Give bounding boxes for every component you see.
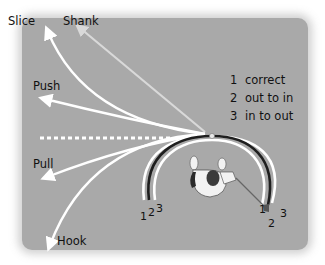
legend-number: 2	[230, 93, 245, 105]
label-shank: Shank	[63, 16, 99, 28]
legend-row-3: 3in to out	[230, 111, 293, 123]
legend-row-2: 2out to in	[230, 93, 293, 105]
golfer-figure	[190, 156, 269, 212]
arc-number-right-2: 2	[268, 218, 275, 229]
arc-number-right-3: 3	[280, 208, 287, 219]
label-slice: Slice	[8, 16, 35, 28]
arc-number-left-1: 1	[140, 211, 147, 222]
label-pull: Pull	[33, 159, 53, 171]
legend-text: in to out	[245, 109, 293, 123]
ball-icon	[209, 133, 214, 138]
arc-number-right-1: 1	[259, 204, 266, 215]
label-push: Push	[33, 81, 60, 93]
shank-path	[80, 28, 205, 132]
legend-number: 1	[230, 75, 245, 87]
swing-diagram	[0, 0, 325, 265]
arc-number-left-2: 2	[148, 207, 155, 218]
arc-number-left-3: 3	[156, 203, 163, 214]
push-path	[45, 99, 205, 134]
legend-row-1: 1correct	[230, 75, 285, 87]
legend-text: out to in	[245, 91, 293, 105]
label-hook: Hook	[57, 236, 86, 248]
legend-text: correct	[245, 73, 285, 87]
legend-number: 3	[230, 111, 245, 123]
